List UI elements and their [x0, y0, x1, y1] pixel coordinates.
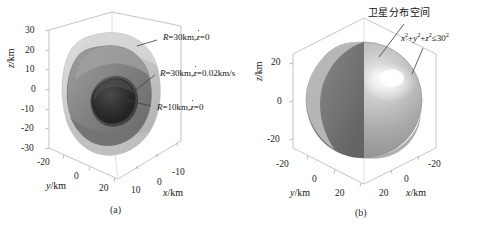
panel-a-x-tick: 0	[157, 178, 162, 188]
inner-surface-label: R=10km,z=0	[157, 103, 203, 113]
panel-a-z-tick: -10	[21, 105, 34, 115]
outer-surface-label: R=30km,z=0	[163, 33, 209, 43]
panel-b-y-tick: -20	[276, 160, 289, 170]
panel-a-z-tick: 0	[31, 85, 36, 95]
panel-b-y-tick: 0	[312, 175, 317, 185]
panel-a-caption: (a)	[110, 205, 121, 215]
panel-b-x-tick: 0	[404, 175, 409, 185]
panel-a-z-axis-label: z/km	[6, 49, 16, 68]
panel-a-z-tick: -20	[21, 124, 34, 134]
sphere-specular-core	[380, 69, 404, 87]
panel-b-caption: (b)	[355, 208, 367, 218]
panel-a-x-axis-label: x/km	[163, 188, 183, 198]
satellite-space-label: 卫星分布空间	[368, 8, 430, 18]
panel-b-x-tick: -20	[428, 160, 441, 170]
panel-b-z-axis-label: z/km	[254, 62, 264, 81]
panel-a-z-tick: -30	[21, 144, 34, 154]
figure-container: 30 20 10 0 -10 -20 -30 z/km -20 0 20 y/k…	[0, 0, 481, 231]
panel-a-x-tick: 10	[131, 186, 141, 196]
panel-b-z-tick: 0	[277, 97, 282, 107]
panel-b: 20 0 -20 z/km -20 0 20 y/km 20 0 -20 x/k…	[240, 0, 481, 231]
panel-a-y-tick: -20	[37, 158, 50, 168]
panel-b-x-axis-label: x/km	[406, 188, 426, 198]
panel-a-x-tick: -10	[172, 168, 185, 178]
sphere-equation-label: x2+y2+z2≤302	[401, 32, 449, 44]
panel-a-y-tick: 20	[99, 184, 109, 194]
panel-b-y-tick: 20	[335, 189, 345, 199]
panel-a-z-tick: 30	[25, 26, 35, 36]
panel-b-z-tick: -20	[267, 135, 280, 145]
panel-b-z-tick: 20	[271, 58, 281, 68]
panel-b-y-axis-label: y/km	[290, 188, 310, 198]
middle-surface-label: R=30km,z=0.02km/s	[160, 69, 235, 79]
panel-b-x-tick: 20	[379, 189, 389, 199]
panel-a-y-axis-label: y/km	[46, 181, 66, 191]
panel-a-z-tick: 10	[25, 65, 35, 75]
panel-a: 30 20 10 0 -10 -20 -30 z/km -20 0 20 y/k…	[0, 0, 240, 231]
panel-a-y-tick: 0	[74, 172, 79, 182]
panel-a-z-tick: 20	[25, 46, 35, 56]
